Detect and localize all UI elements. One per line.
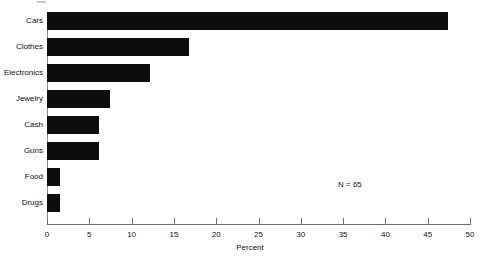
x-tick-20 [216, 218, 217, 225]
x-tick-15 [174, 218, 175, 225]
x-tick-30 [301, 218, 302, 225]
category-label-cash: Cash [0, 116, 43, 134]
x-tick-35 [343, 218, 344, 225]
sample-size-annotation: N = 65 [338, 180, 362, 189]
x-axis-title-text: Percent [236, 243, 264, 252]
x-axis-title: Percent [0, 243, 482, 252]
scan-artifact [37, 1, 46, 3]
category-label-clothes: Clothes [0, 38, 43, 56]
x-tick-50 [470, 218, 471, 225]
x-tick-10 [132, 218, 133, 225]
x-tick-0 [47, 218, 48, 225]
x-tick-label-5: 5 [77, 230, 101, 240]
bar-chart: Cars Clothes Electronics Jewelry Cash Gu… [0, 0, 482, 262]
category-label-guns: Guns [0, 142, 43, 160]
x-tick-25 [259, 218, 260, 225]
x-tick-label-25: 25 [247, 230, 271, 240]
x-tick-label-10: 10 [120, 230, 144, 240]
x-tick-label-30: 30 [289, 230, 313, 240]
category-label-electronics: Electronics [0, 64, 43, 82]
category-label-jewelry: Jewelry [0, 90, 43, 108]
x-tick-45 [428, 218, 429, 225]
x-tick-label-0: 0 [35, 230, 59, 240]
x-tick-40 [385, 218, 386, 225]
category-label-drugs: Drugs [0, 194, 43, 212]
category-label-food: Food [0, 168, 43, 186]
x-tick-label-40: 40 [373, 230, 397, 240]
category-label-cars: Cars [0, 12, 43, 30]
x-tick-5 [89, 218, 90, 225]
x-tick-label-35: 35 [331, 230, 355, 240]
x-tick-label-45: 45 [416, 230, 440, 240]
x-tick-label-15: 15 [162, 230, 186, 240]
x-tick-label-50: 50 [458, 230, 482, 240]
x-tick-label-20: 20 [204, 230, 228, 240]
